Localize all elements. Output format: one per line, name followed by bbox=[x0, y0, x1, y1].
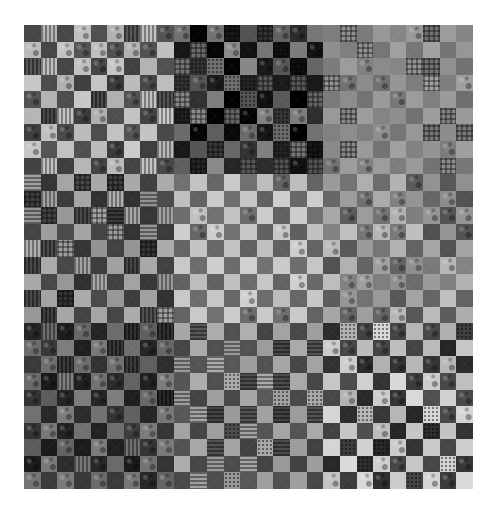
quilt-square bbox=[307, 274, 324, 291]
quilt-square bbox=[224, 257, 241, 274]
quilt-square bbox=[373, 439, 390, 456]
quilt-square bbox=[406, 472, 423, 489]
quilt-square bbox=[290, 174, 307, 191]
quilt-square bbox=[91, 224, 108, 241]
quilt-square bbox=[257, 274, 274, 291]
quilt-square bbox=[257, 390, 274, 407]
quilt-square bbox=[91, 42, 108, 59]
quilt-square bbox=[273, 257, 290, 274]
quilt-square bbox=[41, 257, 58, 274]
quilt-square bbox=[257, 240, 274, 257]
quilt-square bbox=[273, 58, 290, 75]
quilt-square bbox=[290, 224, 307, 241]
quilt-square bbox=[307, 307, 324, 324]
quilt-square bbox=[74, 174, 91, 191]
quilt-square bbox=[257, 25, 274, 42]
quilt-square bbox=[290, 191, 307, 208]
quilt-square bbox=[157, 141, 174, 158]
quilt-square bbox=[240, 257, 257, 274]
quilt-square bbox=[207, 42, 224, 59]
quilt-square bbox=[57, 373, 74, 390]
quilt-square bbox=[190, 274, 207, 291]
quilt-square bbox=[307, 439, 324, 456]
quilt-square bbox=[174, 307, 191, 324]
quilt-square bbox=[41, 91, 58, 108]
quilt-square bbox=[273, 356, 290, 373]
quilt-square bbox=[174, 42, 191, 59]
quilt-square bbox=[124, 158, 141, 175]
quilt-square bbox=[390, 323, 407, 340]
quilt-square bbox=[423, 174, 440, 191]
quilt-square bbox=[57, 108, 74, 125]
quilt-square bbox=[273, 108, 290, 125]
quilt-square bbox=[323, 58, 340, 75]
quilt-square bbox=[41, 25, 58, 42]
quilt-square bbox=[257, 456, 274, 473]
quilt-square bbox=[124, 124, 141, 141]
quilt-square bbox=[174, 224, 191, 241]
quilt-square bbox=[456, 340, 473, 357]
quilt-square bbox=[174, 75, 191, 92]
quilt-square bbox=[124, 58, 141, 75]
quilt-square bbox=[74, 373, 91, 390]
quilt-square bbox=[224, 456, 241, 473]
quilt-square bbox=[357, 224, 374, 241]
quilt-square bbox=[24, 423, 41, 440]
quilt-square bbox=[190, 158, 207, 175]
quilt-square bbox=[207, 25, 224, 42]
quilt-square bbox=[323, 340, 340, 357]
quilt-square bbox=[307, 356, 324, 373]
quilt-square bbox=[373, 323, 390, 340]
quilt-square bbox=[224, 91, 241, 108]
quilt-square bbox=[456, 257, 473, 274]
quilt-square bbox=[423, 323, 440, 340]
quilt-square bbox=[440, 456, 457, 473]
quilt-square bbox=[91, 373, 108, 390]
quilt-square bbox=[91, 340, 108, 357]
quilt-square bbox=[273, 91, 290, 108]
quilt-square bbox=[456, 307, 473, 324]
quilt-square bbox=[373, 224, 390, 241]
quilt-square bbox=[74, 58, 91, 75]
quilt-square bbox=[140, 472, 157, 489]
quilt-square bbox=[257, 257, 274, 274]
quilt-square bbox=[456, 158, 473, 175]
quilt-square bbox=[74, 340, 91, 357]
quilt-square bbox=[273, 373, 290, 390]
quilt-square bbox=[307, 290, 324, 307]
quilt-square bbox=[24, 390, 41, 407]
quilt-square bbox=[307, 456, 324, 473]
quilt-square bbox=[140, 456, 157, 473]
quilt-square bbox=[240, 406, 257, 423]
quilt-square bbox=[390, 75, 407, 92]
quilt-square bbox=[323, 472, 340, 489]
quilt-square bbox=[406, 290, 423, 307]
quilt-square bbox=[74, 257, 91, 274]
quilt-square bbox=[240, 356, 257, 373]
quilt-square bbox=[41, 373, 58, 390]
quilt-square bbox=[357, 141, 374, 158]
quilt-square bbox=[357, 42, 374, 59]
quilt-square bbox=[273, 240, 290, 257]
quilt-square bbox=[107, 42, 124, 59]
quilt-square bbox=[124, 423, 141, 440]
quilt-square bbox=[174, 25, 191, 42]
quilt-square bbox=[157, 240, 174, 257]
quilt-square bbox=[406, 224, 423, 241]
quilt-square bbox=[124, 456, 141, 473]
quilt-square bbox=[456, 58, 473, 75]
quilt-square bbox=[91, 141, 108, 158]
quilt-square bbox=[423, 356, 440, 373]
quilt-square bbox=[456, 91, 473, 108]
quilt-square bbox=[440, 257, 457, 274]
quilt-square bbox=[290, 274, 307, 291]
quilt-square bbox=[190, 257, 207, 274]
quilt-square bbox=[406, 158, 423, 175]
quilt-square bbox=[207, 307, 224, 324]
quilt-square bbox=[157, 373, 174, 390]
quilt-square bbox=[174, 141, 191, 158]
quilt-square bbox=[207, 141, 224, 158]
quilt-square bbox=[124, 439, 141, 456]
quilt-square bbox=[373, 406, 390, 423]
quilt-square bbox=[456, 108, 473, 125]
